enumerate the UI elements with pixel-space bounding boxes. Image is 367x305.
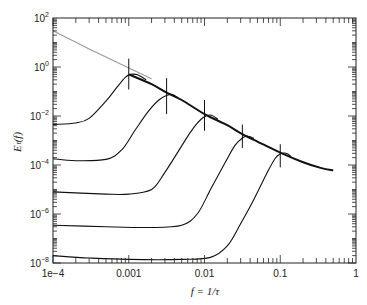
x-tick-label: 0.01 <box>195 268 215 279</box>
series-curve-4 <box>53 136 254 227</box>
series-curve-1 <box>53 74 146 124</box>
series-curve-2 <box>53 94 178 160</box>
x-tick-label: 1e−4 <box>42 268 65 279</box>
y-tick-label: 10−4 <box>30 158 49 171</box>
chart: 1e−40.0010.010.11 10210010−210−410−610−8… <box>0 0 367 305</box>
y-tick-labels: 10210010−210−410−610−8 <box>30 11 49 269</box>
series-curve-5 <box>53 153 291 260</box>
x-axis-title: f = 1/τ <box>191 285 221 297</box>
x-tick-label: 1 <box>353 268 359 279</box>
y-tick-label: 102 <box>34 11 49 24</box>
reference-line <box>53 31 152 79</box>
x-tick-labels: 1e−40.0010.010.11 <box>42 268 359 279</box>
y-axis-title: Eₜ(f) <box>11 132 24 153</box>
y-tick-label: 10−6 <box>30 207 49 220</box>
y-tick-label: 100 <box>34 60 49 73</box>
x-tick-label: 0.001 <box>116 268 141 279</box>
plot-curves <box>53 31 333 260</box>
y-tick-label: 10−2 <box>30 109 49 122</box>
series-curve-3 <box>53 115 218 195</box>
envelope-line <box>129 74 333 170</box>
x-tick-label: 0.1 <box>273 268 287 279</box>
